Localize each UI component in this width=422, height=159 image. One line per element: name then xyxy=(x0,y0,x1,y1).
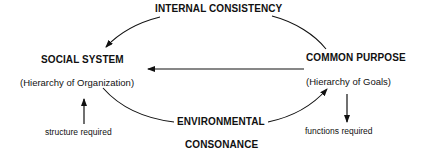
common-purpose-title: COMMON PURPOSE xyxy=(306,53,406,63)
cycle-diagram: INTERNAL CONSISTENCY SOCIAL SYSTEM (Hier… xyxy=(0,0,422,159)
environmental-label: ENVIRONMENTAL xyxy=(177,117,265,127)
arrow-internal-to-social xyxy=(106,17,160,47)
structure-required-label: structure required xyxy=(45,128,112,137)
internal-consistency-label: INTERNAL CONSISTENCY xyxy=(155,4,282,14)
common-purpose-subtitle: (Hierarchy of Goals) xyxy=(306,77,391,87)
functions-required-label: functions required xyxy=(305,127,373,136)
social-system-title: SOCIAL SYSTEM xyxy=(41,55,124,65)
line-internal-to-common xyxy=(272,16,326,49)
arrow-environmental-to-common xyxy=(268,89,327,122)
line-social-to-environmental xyxy=(103,88,174,122)
consonance-label: CONSONANCE xyxy=(185,140,258,150)
social-system-subtitle: (Hierarchy of Organization) xyxy=(20,78,134,88)
